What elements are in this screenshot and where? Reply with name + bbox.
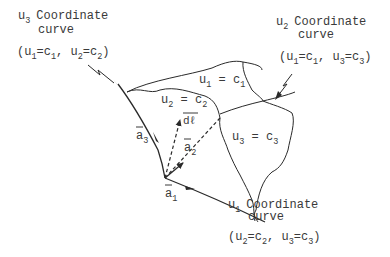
svg-text:(u1=c1, u2=c2): (u1=c1, u2=c2)	[17, 45, 109, 62]
surface-u1-label: u1 = c1	[199, 73, 245, 90]
dl-label: dℓ	[183, 113, 198, 127]
svg-text:(u1=c1, u3=c3): (u1=c1, u3=c3)	[279, 50, 371, 67]
a1-label: a1	[165, 185, 177, 204]
svg-text:dℓ: dℓ	[183, 115, 196, 127]
u3-curve-arrow-icon	[112, 78, 121, 89]
surface-u3-label: u3 = c3	[232, 130, 278, 147]
svg-text:curve: curve	[38, 23, 74, 37]
coordinate-curves-diagram: u3Coordinate curve (u1=c1, u2=c2) u2Coor…	[0, 0, 390, 257]
u3-leader-line	[88, 65, 114, 83]
u3-curve-label: u3Coordinate curve (u1=c1, u2=c2)	[17, 9, 109, 62]
dl-vector	[165, 120, 180, 178]
svg-text:a3: a3	[136, 129, 148, 146]
svg-text:(u2=c2, u3=c3): (u2=c2, u3=c3)	[228, 230, 320, 247]
svg-text:a1: a1	[165, 187, 177, 204]
svg-text:curve: curve	[248, 210, 284, 224]
surface-u2-label: u2 = c2	[161, 93, 207, 110]
u1-curve-label: u1Coordinate curve (u2=c2, u3=c3)	[228, 198, 320, 247]
u2-curve-label: u2Coordinate curve (u1=c1, u3=c3)	[276, 15, 371, 67]
u1-surface-right-edge	[243, 62, 263, 101]
svg-text:curve: curve	[298, 28, 334, 42]
